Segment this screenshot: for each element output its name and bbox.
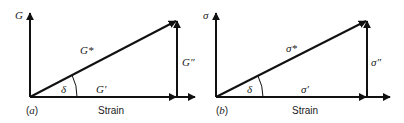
hypotenuse-label: σ* (286, 42, 297, 54)
y-axis-label: σ (203, 9, 209, 21)
horizontal-component-label: G′ (96, 83, 107, 95)
y-axis-label: G (15, 9, 23, 21)
angle-label: δ (247, 83, 253, 95)
delta-angle-arc (72, 75, 77, 97)
x-axis-label: Strain (98, 105, 124, 116)
phasor-diagrams: G G* G′ G″ δ Strain (a) σ σ* σ′ σ″ δ Str… (0, 0, 404, 123)
x-axis-label: Strain (292, 105, 318, 116)
angle-label: δ (61, 83, 67, 95)
horizontal-component-label: σ′ (301, 83, 309, 95)
vertical-component-label: σ″ (371, 56, 381, 68)
hypotenuse-label: G* (80, 44, 94, 56)
complex-stress-arrow (216, 21, 366, 97)
panel-b: σ σ* σ′ σ″ δ Strain (b) (203, 9, 390, 116)
panel-a: G G* G′ G″ δ Strain (a) (15, 9, 195, 116)
delta-angle-arc (258, 76, 263, 97)
panel-tag: (b) (216, 104, 228, 116)
panel-tag: (a) (26, 104, 38, 116)
vertical-component-label: G″ (182, 56, 195, 68)
